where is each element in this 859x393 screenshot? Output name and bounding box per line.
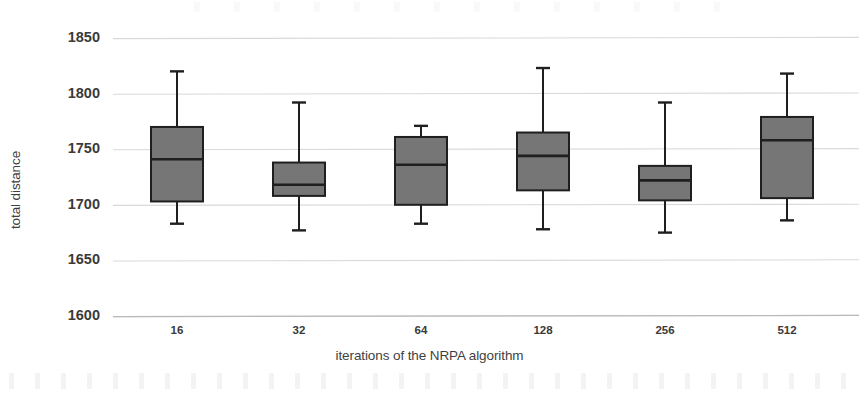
gridline [113, 93, 859, 94]
box[interactable] [639, 166, 691, 200]
gridline [113, 149, 859, 150]
gridline [113, 204, 859, 205]
box[interactable] [395, 137, 447, 205]
box[interactable] [761, 117, 813, 198]
box[interactable] [273, 163, 325, 196]
boxplot-chart: total distance 160016501700175018001850 … [0, 0, 859, 393]
box[interactable] [517, 133, 569, 191]
gridline [113, 260, 859, 261]
gridline [113, 37, 859, 38]
x-axis-line [113, 315, 859, 316]
scan-artifact-bottom [0, 373, 859, 389]
box[interactable] [151, 127, 203, 202]
x-axis-title: iterations of the NRPA algorithm [0, 348, 859, 363]
plot-area [0, 0, 859, 393]
